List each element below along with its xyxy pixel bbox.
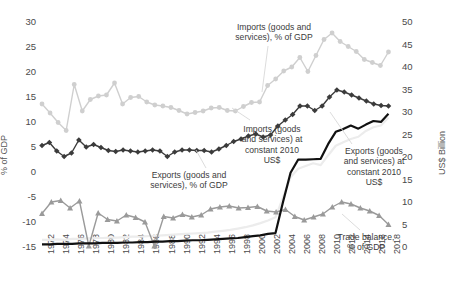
annotation-leader-line (232, 108, 250, 120)
data-point (371, 101, 377, 107)
data-point (150, 147, 156, 153)
data-point (177, 108, 182, 113)
data-point (96, 94, 101, 99)
annotation-leader-line (330, 112, 352, 144)
data-point (142, 148, 148, 154)
annotation-trade-balance: Trade balance, % of GDP (326, 232, 406, 253)
data-point (48, 111, 53, 116)
data-point (209, 106, 214, 111)
data-point (305, 69, 310, 74)
data-point (123, 212, 129, 218)
series-0 (40, 31, 391, 133)
data-point (265, 83, 270, 88)
data-point (56, 120, 61, 125)
data-point (249, 100, 254, 105)
data-point (179, 212, 185, 218)
data-point (386, 50, 391, 55)
data-point (64, 128, 69, 133)
data-point (297, 55, 302, 60)
data-point (356, 95, 362, 101)
data-point (314, 53, 319, 58)
data-point (370, 60, 375, 65)
data-point (217, 105, 222, 110)
annotation-leader-line (342, 214, 360, 230)
data-point (378, 103, 384, 109)
data-point (128, 148, 134, 154)
data-point (104, 93, 109, 98)
data-point (209, 149, 215, 155)
annotation-imports-pct-gdp: Imports (goods and services), % of GDP (214, 22, 334, 43)
data-point (281, 69, 286, 74)
data-point (120, 147, 126, 153)
data-point (225, 108, 230, 113)
chart-container: % of GDP US$ Billion 302520151050-5-10-1… (0, 0, 452, 301)
data-point (338, 39, 343, 44)
data-point (128, 95, 133, 100)
data-point (185, 112, 190, 117)
data-point (354, 49, 359, 54)
data-point (193, 110, 198, 115)
data-point (364, 98, 370, 104)
data-point (39, 143, 45, 149)
data-point (341, 89, 347, 95)
data-point (169, 105, 174, 110)
data-point (194, 148, 200, 154)
data-point (142, 219, 148, 225)
series-line (42, 33, 388, 131)
data-point (40, 102, 45, 107)
data-point (112, 81, 117, 86)
data-point (386, 103, 392, 109)
data-point (136, 94, 141, 99)
data-point (329, 204, 335, 210)
data-point (144, 100, 149, 105)
data-point (346, 44, 351, 49)
data-point (378, 63, 383, 68)
data-point (216, 146, 222, 152)
data-point (257, 100, 262, 105)
data-point (349, 92, 355, 98)
annotation-exports-pct-gdp: Exports (goods and services), % of GDP (128, 170, 250, 191)
data-point (273, 77, 278, 82)
data-point (98, 145, 104, 151)
data-point (282, 207, 288, 213)
data-point (72, 82, 77, 87)
data-point (120, 102, 125, 107)
data-point (241, 104, 246, 109)
data-point (187, 147, 193, 153)
data-point (135, 149, 141, 155)
data-point (106, 148, 112, 154)
data-point (376, 213, 382, 219)
data-point (151, 243, 157, 249)
data-point (80, 109, 85, 114)
data-point (201, 109, 206, 114)
data-point (179, 147, 185, 153)
data-point (76, 198, 82, 204)
data-point (95, 210, 101, 216)
data-point (160, 104, 165, 109)
data-point (91, 142, 97, 148)
data-point (289, 65, 294, 70)
annotation-imports-constant: Imports (goods and services) at constant… (228, 124, 316, 166)
data-point (201, 148, 207, 154)
data-point (69, 150, 75, 156)
data-point (362, 57, 367, 62)
data-point (88, 97, 93, 102)
data-point (113, 149, 119, 155)
annotation-exports-constant: Exports (goods and services) at constant… (334, 146, 414, 188)
data-point (152, 103, 157, 108)
